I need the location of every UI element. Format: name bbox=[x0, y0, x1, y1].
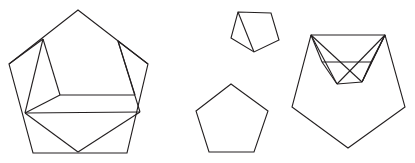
right-pentagon-crease-4 bbox=[337, 82, 362, 84]
left-pentagon-crease-10 bbox=[78, 112, 140, 152]
figure-right-folded-pentagon bbox=[292, 35, 405, 148]
right-pentagon-crease-2 bbox=[311, 35, 362, 82]
right-pentagon-crease-5 bbox=[311, 35, 322, 62]
left-pentagon-crease-3 bbox=[25, 95, 60, 113]
top-small-pentagon-outline bbox=[231, 12, 279, 52]
left-pentagon-outline bbox=[9, 10, 148, 153]
right-pentagon-outline bbox=[292, 35, 405, 148]
figure-bottom-plain-pentagon bbox=[196, 84, 268, 152]
left-pentagon-crease-9 bbox=[25, 113, 78, 152]
right-pentagon-crease-6 bbox=[322, 62, 337, 84]
top-small-pentagon-crease-0 bbox=[238, 12, 254, 52]
right-pentagon-crease-0 bbox=[311, 35, 337, 84]
geometric-figures-canvas bbox=[0, 0, 415, 163]
left-pentagon-crease-8 bbox=[25, 112, 140, 113]
right-pentagon-crease-10 bbox=[362, 35, 385, 82]
left-pentagon-crease-1 bbox=[43, 39, 60, 95]
bottom-plain-pentagon-outline bbox=[196, 84, 268, 152]
figure-left-folded-pentagon bbox=[9, 10, 148, 153]
left-pentagon-crease-7 bbox=[118, 41, 140, 112]
left-pentagon-crease-6 bbox=[118, 41, 148, 64]
figure-top-small-pentagon bbox=[231, 12, 279, 52]
right-pentagon-crease-1 bbox=[337, 35, 385, 84]
